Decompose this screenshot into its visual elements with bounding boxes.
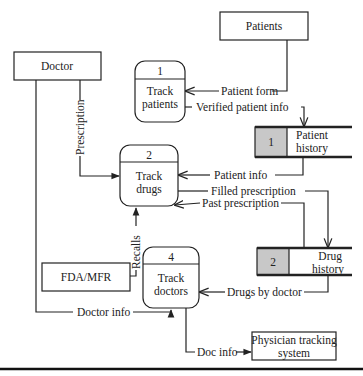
process-1-line1: Track bbox=[147, 85, 174, 97]
flow-recalls-label: Recalls bbox=[130, 235, 142, 269]
process-1-line2: patients bbox=[142, 98, 178, 111]
flow-drugs-by-doctor: Drugs by doctor bbox=[200, 275, 328, 299]
flow-patient-form: Patient form bbox=[186, 40, 287, 97]
entity-doctor-label: Doctor bbox=[41, 60, 73, 72]
process-track-drugs[interactable]: 2 Track drugs bbox=[120, 145, 178, 206]
flow-recalls: Recalls bbox=[130, 208, 142, 276]
process-2-number: 2 bbox=[146, 149, 152, 161]
entity-physician-label-2: system bbox=[278, 347, 310, 360]
entity-fda-mfr[interactable]: FDA/MFR bbox=[42, 263, 130, 291]
process-1-number: 1 bbox=[157, 65, 163, 77]
flow-doc-info-label: Doc info bbox=[197, 346, 238, 358]
datastore-1-line2: history bbox=[296, 142, 328, 155]
process-2-line1: Track bbox=[136, 170, 163, 182]
datastore-drug-history[interactable]: 2 Drug history bbox=[257, 248, 352, 276]
flow-prescription-label: Prescription bbox=[74, 99, 87, 155]
flow-patient-info: Patient info bbox=[179, 157, 303, 181]
process-track-doctors[interactable]: 4 Track doctors bbox=[143, 247, 199, 308]
flow-prescription: Prescription bbox=[74, 80, 119, 176]
flow-verified-patient-info-label: Verified patient info bbox=[196, 101, 289, 114]
entity-doctor[interactable]: Doctor bbox=[14, 52, 101, 80]
process-4-line2: doctors bbox=[154, 285, 188, 297]
process-4-line1: Track bbox=[158, 272, 185, 284]
flow-past-prescription: Past prescription bbox=[175, 197, 304, 248]
datastore-2-line2: history bbox=[312, 263, 344, 276]
entity-fda-label: FDA/MFR bbox=[61, 271, 112, 283]
entity-physician-label-1: Physician tracking bbox=[251, 334, 337, 347]
datastore-2-number: 2 bbox=[270, 256, 276, 268]
flow-drugs-by-doctor-label: Drugs by doctor bbox=[227, 286, 302, 299]
datastore-1-number: 1 bbox=[268, 136, 274, 148]
data-flow-diagram: Doctor Patients FDA/MFR Physician tracki… bbox=[0, 0, 363, 376]
entity-physician-tracking-system[interactable]: Physician tracking system bbox=[251, 332, 337, 360]
flow-past-prescription-label: Past prescription bbox=[202, 197, 279, 210]
flow-patient-form-label: Patient form bbox=[221, 85, 278, 97]
entity-patients[interactable]: Patients bbox=[220, 12, 308, 40]
process-2-line2: drugs bbox=[136, 183, 162, 196]
entity-patients-label: Patients bbox=[246, 20, 283, 32]
datastore-2-line1: Drug bbox=[318, 250, 342, 263]
flow-patient-info-label: Patient info bbox=[214, 169, 268, 181]
datastore-patient-history[interactable]: 1 Patient history bbox=[255, 127, 352, 157]
datastore-1-line1: Patient bbox=[296, 129, 329, 141]
flow-doctor-info-label: Doctor info bbox=[77, 306, 131, 318]
flow-filled-prescription: Filled prescription bbox=[178, 185, 328, 247]
flow-doc-info: Doc info bbox=[186, 308, 251, 358]
process-track-patients[interactable]: 1 Track patients bbox=[135, 61, 185, 122]
process-4-number: 4 bbox=[168, 251, 174, 263]
flow-verified-patient-info: Verified patient info bbox=[185, 101, 304, 126]
